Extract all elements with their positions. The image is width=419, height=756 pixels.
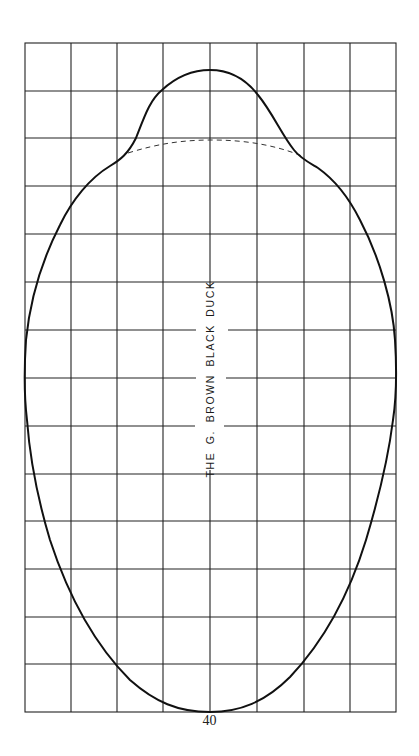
page-number: 40 (0, 713, 419, 729)
pattern-title: THE G. BROWN BLACK DUCK (204, 281, 216, 478)
dashed-body-line (128, 140, 302, 156)
